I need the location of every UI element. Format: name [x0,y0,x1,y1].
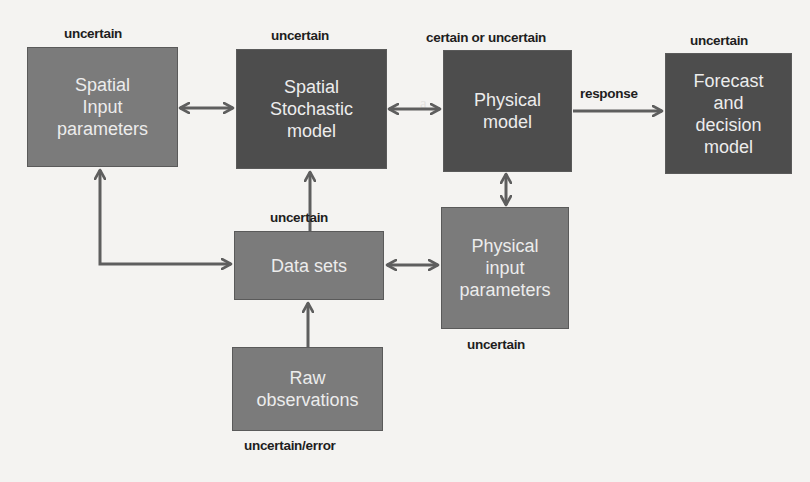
tag-spatial-input: uncertain [64,26,122,41]
tag-physical-input: uncertain [467,337,525,352]
node-spatial-input[interactable]: Spatial Input parameters [27,47,178,167]
node-physical-input[interactable]: Physical input parameters [441,207,569,329]
tag-physical-model: certain or uncertain [426,30,546,45]
tag-forecast: uncertain [690,33,748,48]
node-forecast[interactable]: Forecast and decision model [665,53,792,174]
node-data-sets[interactable]: Data sets [234,231,384,300]
node-label: Spatial Stochastic model [270,76,353,142]
edge-label-response: response [580,86,638,101]
tag-data-sets: uncertain [270,210,328,225]
node-raw-observations[interactable]: Raw observations [232,347,383,431]
node-spatial-stochastic[interactable]: Spatial Stochastic model [236,49,387,169]
tag-spatial-stochastic: uncertain [271,28,329,43]
node-label: Physical model [474,89,541,133]
node-label: Forecast and decision model [693,70,763,158]
edge-data-input [100,170,231,264]
node-label: Raw observations [256,367,358,411]
tag-raw-observations: uncertain/error [244,438,336,453]
node-label: Data sets [271,255,347,277]
node-label: Spatial Input parameters [57,74,148,140]
node-label: Physical input parameters [459,235,550,301]
node-physical-model[interactable]: Physical model [443,50,572,172]
